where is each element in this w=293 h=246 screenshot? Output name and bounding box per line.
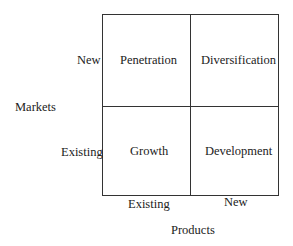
y-tick-new: New bbox=[77, 54, 101, 67]
x-tick-existing: Existing bbox=[128, 198, 170, 211]
y-tick-existing: Existing bbox=[61, 146, 103, 159]
grid-bottom-border bbox=[103, 195, 279, 196]
grid-right-border bbox=[278, 14, 279, 196]
grid-left-border bbox=[102, 14, 103, 196]
cell-bottom-right-label: Development bbox=[205, 145, 272, 158]
x-tick-new: New bbox=[224, 196, 248, 209]
y-axis-label: Markets bbox=[15, 101, 56, 114]
grid-vertical-divider bbox=[190, 14, 191, 196]
cell-top-right-label: Diversification bbox=[201, 54, 276, 67]
x-axis-label: Products bbox=[171, 224, 215, 237]
cell-top-left-label: Penetration bbox=[120, 54, 177, 67]
cell-bottom-left-label: Growth bbox=[130, 145, 168, 158]
